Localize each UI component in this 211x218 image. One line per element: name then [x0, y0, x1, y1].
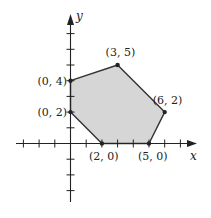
vertex-point — [147, 141, 151, 145]
x-axis-label: x — [190, 149, 197, 163]
vertex-label: (2, 0) — [89, 150, 119, 163]
vertex-point — [68, 110, 72, 114]
vertex-point — [68, 79, 72, 83]
feasible-region — [71, 65, 165, 144]
x-axis-arrow-icon — [187, 140, 197, 147]
vertex-label: (3, 5) — [106, 46, 136, 59]
vertex-point — [163, 110, 167, 114]
coordinate-plot: (0, 2)(0, 4)(3, 5)(6, 2)(5, 0)(2, 0) x y — [0, 0, 211, 218]
vertex-label: (0, 2) — [38, 106, 68, 119]
vertex-label: (5, 0) — [138, 150, 168, 163]
vertex-point — [100, 141, 104, 145]
vertex-label: (6, 2) — [153, 94, 183, 107]
y-axis-label: y — [75, 9, 83, 23]
vertex-point — [115, 63, 119, 67]
y-axis-arrow-icon — [67, 14, 74, 25]
vertex-label: (0, 4) — [38, 75, 68, 88]
